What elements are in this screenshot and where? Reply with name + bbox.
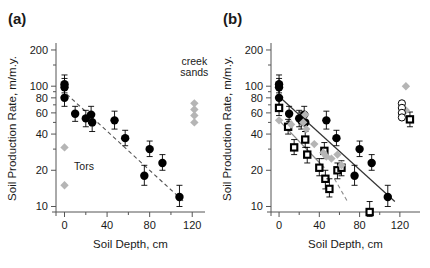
- y-tick-label: 80: [251, 92, 263, 104]
- marker-diamond: [402, 82, 410, 90]
- marker-filled-circle: [355, 145, 363, 153]
- marker-filled-circle: [285, 110, 293, 118]
- marker-filled-circle: [175, 193, 183, 201]
- marker-filled-circle: [332, 134, 340, 142]
- marker-filled-circle: [158, 159, 166, 167]
- lower-dashed-segment: [334, 179, 347, 202]
- panel_a-svg: (a)102040608010020004080120Soil Depth, c…: [0, 0, 215, 268]
- y-axis-title: Soil Production Rate, m/m.y.: [6, 56, 18, 201]
- marker-square-dot: [325, 185, 333, 193]
- panel-a: (a)102040608010020004080120Soil Depth, c…: [0, 0, 215, 268]
- marker-filled-circle: [88, 118, 96, 126]
- y-tick-label: 60: [36, 107, 48, 119]
- marker-filled-circle: [60, 94, 68, 102]
- marker-square-dot: [365, 208, 373, 216]
- marker-diamond: [190, 118, 198, 126]
- y-tick-label: 10: [36, 200, 48, 212]
- y-tick-label: 60: [251, 107, 263, 119]
- y-tick-label: 100: [245, 80, 263, 92]
- marker-diamond: [310, 140, 318, 148]
- series-1: [60, 143, 68, 189]
- panel-b: (b)102040608010020004080120Soil Depth, c…: [215, 0, 430, 268]
- y-tick-label: 20: [36, 164, 48, 176]
- x-tick-label: 120: [391, 219, 409, 231]
- y-tick-label: 40: [36, 128, 48, 140]
- series-2: [275, 82, 410, 170]
- series-0: [60, 75, 183, 207]
- y-tick-label: 200: [245, 44, 263, 56]
- marker-filled-circle: [350, 172, 358, 180]
- marker-filled-circle: [121, 134, 129, 142]
- marker-filled-circle: [367, 159, 375, 167]
- figure-container: (a)102040608010020004080120Soil Depth, c…: [0, 0, 430, 268]
- panel_b-svg: (b)102040608010020004080120Soil Depth, c…: [215, 0, 430, 268]
- marker-filled-circle: [384, 193, 392, 201]
- x-axis-title: Soil Depth, cm: [308, 238, 383, 250]
- x-tick-label: 40: [101, 219, 113, 231]
- y-axis-title: Soil Production Rate, m/m.y.: [221, 56, 233, 201]
- x-tick-label: 80: [353, 219, 365, 231]
- x-tick-label: 0: [61, 219, 67, 231]
- marker-square-dot: [406, 115, 414, 123]
- marker-filled-circle: [110, 116, 118, 124]
- y-tick-label: 80: [36, 92, 48, 104]
- y-tick-label: 20: [251, 164, 263, 176]
- x-tick-label: 120: [183, 219, 201, 231]
- marker-square-dot: [301, 135, 309, 143]
- marker-square-dot: [290, 143, 298, 151]
- marker-open-circle: [398, 114, 405, 121]
- marker-diamond: [60, 181, 68, 189]
- y-tick-label: 100: [30, 80, 48, 92]
- series-3: [398, 100, 405, 121]
- x-tick-label: 80: [144, 219, 156, 231]
- x-tick-label: 40: [313, 219, 325, 231]
- x-tick-label: 0: [276, 219, 282, 231]
- creek-sands-label-2: sands: [180, 66, 208, 78]
- marker-diamond: [60, 143, 68, 151]
- panel-tag: (b): [223, 10, 242, 27]
- x-axis-title: Soil Depth, cm: [93, 238, 168, 250]
- marker-filled-circle: [87, 110, 95, 118]
- marker-filled-circle: [322, 116, 330, 124]
- y-tick-label: 200: [30, 44, 48, 56]
- marker-square-dot: [275, 104, 283, 112]
- marker-filled-circle: [140, 172, 148, 180]
- tors-label: Tors: [74, 160, 94, 172]
- marker-filled-circle: [71, 110, 79, 118]
- panel-tag: (a): [8, 10, 26, 27]
- series-2: [190, 99, 198, 126]
- marker-filled-circle: [145, 145, 153, 153]
- marker-square-dot: [315, 164, 323, 172]
- y-tick-label: 10: [251, 200, 263, 212]
- y-tick-label: 40: [251, 128, 263, 140]
- marker-square-dot: [303, 150, 311, 158]
